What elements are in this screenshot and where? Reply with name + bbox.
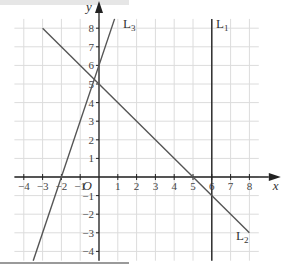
x-tick-label: −4 bbox=[18, 180, 30, 192]
x-tick-label: 7 bbox=[228, 180, 234, 192]
y-tick-label: −3 bbox=[82, 227, 94, 239]
y-tick-label: −2 bbox=[82, 208, 94, 220]
x-tick-label: 3 bbox=[153, 180, 159, 192]
x-tick-label: 8 bbox=[247, 180, 253, 192]
y-axis-arrow-icon bbox=[95, 1, 103, 13]
line-l2 bbox=[43, 28, 250, 233]
y-tick-label: 7 bbox=[89, 41, 95, 53]
y-tick-label: 1 bbox=[89, 152, 95, 164]
y-tick-label: −4 bbox=[82, 245, 94, 257]
y-tick-label: 8 bbox=[89, 22, 95, 34]
x-tick-label: −3 bbox=[37, 180, 49, 192]
label-l3: L3 bbox=[123, 16, 136, 33]
x-tick-label: 5 bbox=[190, 180, 196, 192]
label-l1: L1 bbox=[216, 16, 228, 33]
y-tick-label: 2 bbox=[89, 134, 95, 146]
x-tick-label: 4 bbox=[171, 180, 177, 192]
y-tick-label: 6 bbox=[89, 59, 95, 71]
coordinate-graph: −4−3−2−112345678−4−3−2−112345678OxyL1L2L… bbox=[0, 0, 289, 276]
x-axis-label: x bbox=[272, 178, 279, 193]
y-axis-label: y bbox=[84, 0, 92, 14]
origin-label: O bbox=[83, 178, 93, 193]
y-tick-label: 3 bbox=[89, 115, 95, 127]
x-tick-label: 1 bbox=[115, 180, 121, 192]
y-tick-label: 4 bbox=[89, 97, 95, 109]
x-tick-label: 2 bbox=[134, 180, 140, 192]
